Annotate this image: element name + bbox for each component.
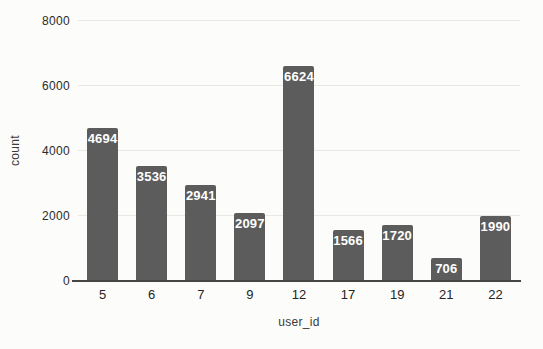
bar-slot: 706 — [422, 21, 471, 281]
bar-slot: 4694 — [78, 21, 127, 281]
bar-value-label: 1720 — [382, 228, 412, 243]
bar-slot: 1566 — [324, 21, 373, 281]
bar-value-label: 2941 — [186, 188, 216, 203]
y-axis-tick-label: 2000 — [42, 209, 70, 223]
bar-slot: 2941 — [176, 21, 225, 281]
x-axis-tick-label: 9 — [225, 287, 274, 302]
y-axis-tick-label: 8000 — [42, 14, 70, 28]
y-axis-tick-label: 0 — [63, 274, 70, 288]
bar-value-label: 706 — [435, 261, 457, 276]
x-axis-tick-label: 7 — [176, 287, 225, 302]
x-axis-tick-label: 12 — [274, 287, 323, 302]
bar: 1566 — [333, 230, 364, 281]
bar-chart: count 02000400060008000 4694353629412097… — [0, 0, 543, 349]
bar: 6624 — [283, 66, 314, 281]
x-axis-title: user_id — [78, 315, 520, 329]
bar-slot: 6624 — [274, 21, 323, 281]
x-axis-tick-label: 5 — [78, 287, 127, 302]
bar-slot: 1720 — [373, 21, 422, 281]
bar-value-label: 1566 — [333, 233, 363, 248]
x-axis-line — [72, 280, 521, 282]
bar: 1990 — [480, 216, 511, 281]
y-axis-tick-label: 4000 — [42, 144, 70, 158]
y-axis-tick-label: 6000 — [42, 79, 70, 93]
bar-value-label: 4694 — [88, 131, 118, 146]
bars-layer: 46943536294120976624156617207061990 — [78, 21, 520, 281]
x-axis-tick-label: 22 — [471, 287, 520, 302]
bar-slot: 3536 — [127, 21, 176, 281]
bar: 2097 — [234, 213, 265, 281]
bar-slot: 2097 — [225, 21, 274, 281]
bar-slot: 1990 — [471, 21, 520, 281]
bar-value-label: 1990 — [481, 219, 511, 234]
bar: 4694 — [87, 128, 118, 281]
bar-value-label: 6624 — [284, 69, 314, 84]
x-axis-tick-label: 6 — [127, 287, 176, 302]
x-axis-tick-label: 21 — [422, 287, 471, 302]
x-axis-tick-label: 17 — [324, 287, 373, 302]
bar-value-label: 3536 — [137, 169, 167, 184]
y-axis: 02000400060008000 — [0, 21, 70, 281]
x-axis-tick-label: 19 — [373, 287, 422, 302]
plot-area: 46943536294120976624156617207061990 — [78, 21, 520, 281]
bar: 706 — [431, 258, 462, 281]
x-axis: 56791217192122 — [78, 287, 520, 302]
bar: 1720 — [382, 225, 413, 281]
bar-value-label: 2097 — [235, 216, 265, 231]
bar: 2941 — [185, 185, 216, 281]
bar: 3536 — [136, 166, 167, 281]
